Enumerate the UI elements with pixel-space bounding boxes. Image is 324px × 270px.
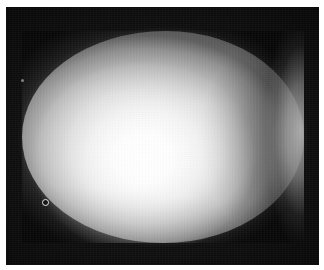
- egg-top-shading: [22, 31, 304, 243]
- figure-root: [0, 0, 324, 270]
- reference-ring-marker-icon: [42, 199, 49, 206]
- egg-subject: [22, 31, 304, 243]
- photographic-plate: [6, 7, 319, 265]
- dust-speck-icon: [21, 79, 24, 82]
